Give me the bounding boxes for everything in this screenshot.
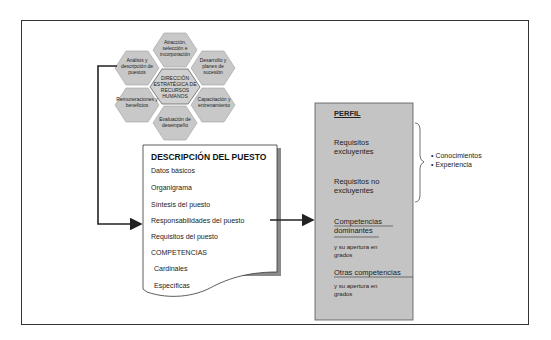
document-title: DESCRIPCIÓN DEL PUESTO [151,152,266,162]
perfil-apertura-grados-2: y su apertura en grados [334,282,394,298]
diagram-graphics [0,0,551,340]
hex-label-top: Atracción, selección e incorporación [155,39,195,57]
bullet-conocimientos: Conocimientos [431,151,482,160]
perfil-requisitos-excluyentes: Requisitos excluyentes [334,138,384,156]
perfil-otras-competencias: Otras competencias [334,268,414,277]
document-item: COMPETENCIAS [151,249,207,256]
hex-label-lower-left: Remuneraciones y beneficios [113,96,161,108]
perfil-title: PERFIL [334,109,361,118]
perfil-competencias-dominantes: Competencias dominantes [334,217,396,235]
bullet-experiencia: Experiencia [431,160,482,169]
document-item: Organigrama [151,184,192,191]
document-item: Específicas [154,282,190,289]
brace-bullet-list: Conocimientos Experiencia [431,151,482,169]
document-item: Cardinales [154,265,187,272]
document-item: Requisitos del puesto [151,233,218,240]
perfil-apertura-grados-1: y su apertura en grados [334,243,394,259]
document-item: Responsabilidades del puesto [151,217,244,224]
perfil-requisitos-no-excluyentes: Requisitos no excluyentes [334,177,394,195]
hex-label-upper-right: Desarrollo y planes de sucesión [193,57,233,75]
document-item: Datos básicos [151,167,195,174]
hex-label-bottom: Evaluación de desempeño [155,116,195,128]
hex-label-upper-left: Análisis y descripción de puestos [117,57,157,75]
hex-label-lower-right: Capacitación y entrenamiento [191,96,237,108]
document-item: Síntesis del puesto [151,201,210,208]
